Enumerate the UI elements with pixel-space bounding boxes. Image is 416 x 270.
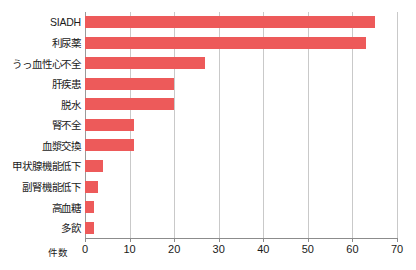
bar-row <box>85 74 397 95</box>
bar-row <box>85 115 397 136</box>
bar-row <box>85 135 397 156</box>
bar-row <box>85 197 397 218</box>
category-row: 腎不全 <box>0 115 81 136</box>
category-label: 甲状腺機能低下 <box>12 158 81 173</box>
x-tick-label-10: 10 <box>123 243 135 255</box>
category-label: 利尿薬 <box>52 35 81 50</box>
category-row: 肝疾患 <box>0 74 81 95</box>
x-axis-line <box>85 238 398 239</box>
bar-2 <box>85 57 205 69</box>
x-tick-label-30: 30 <box>213 243 225 255</box>
x-tick-mark-30 <box>219 238 220 242</box>
category-row: 血漿交換 <box>0 135 81 156</box>
category-label: 腎不全 <box>52 117 81 132</box>
x-tick-label-0: 0 <box>82 243 88 255</box>
category-row: 脱水 <box>0 94 81 115</box>
category-label: 多飲 <box>61 220 81 235</box>
bar-row <box>85 156 397 177</box>
category-row: 高血糖 <box>0 197 81 218</box>
category-row: 副腎機能低下 <box>0 176 81 197</box>
category-row: 利尿薬 <box>0 33 81 54</box>
bar-rows <box>85 12 397 238</box>
category-label: 肝疾患 <box>52 76 81 91</box>
bar-0 <box>85 16 375 28</box>
bar-7 <box>85 160 103 172</box>
category-row: 甲状腺機能低下 <box>0 156 81 177</box>
category-label: SIADH <box>50 16 81 28</box>
category-label: 血漿交換 <box>42 138 81 153</box>
bar-row <box>85 33 397 54</box>
category-label: 脱水 <box>61 97 81 112</box>
bar-8 <box>85 181 98 193</box>
x-tick-label-20: 20 <box>168 243 180 255</box>
bar-chart: SIADH利尿薬うっ血性心不全肝疾患脱水腎不全血漿交換甲状腺機能低下副腎機能低下… <box>0 0 416 270</box>
category-row: SIADH <box>0 12 81 33</box>
category-row: うっ血性心不全 <box>0 53 81 74</box>
bar-10 <box>85 222 94 234</box>
x-tick-mark-20 <box>174 238 175 242</box>
gridline-70 <box>397 12 398 238</box>
bar-row <box>85 12 397 33</box>
x-tick-mark-70 <box>397 238 398 242</box>
bar-4 <box>85 98 174 110</box>
bar-6 <box>85 139 134 151</box>
x-tick-mark-0 <box>85 238 86 242</box>
x-tick-mark-60 <box>352 238 353 242</box>
bar-3 <box>85 78 174 90</box>
bottom-edge-spacer <box>0 266 416 270</box>
x-tick-label-50: 50 <box>302 243 314 255</box>
bar-5 <box>85 119 134 131</box>
x-tick-mark-50 <box>308 238 309 242</box>
category-label: 副腎機能低下 <box>22 179 81 194</box>
bar-row <box>85 94 397 115</box>
x-tick-label-70: 70 <box>391 243 403 255</box>
x-tick-label-40: 40 <box>257 243 269 255</box>
category-label: 高血糖 <box>52 200 81 215</box>
category-axis-labels: SIADH利尿薬うっ血性心不全肝疾患脱水腎不全血漿交換甲状腺機能低下副腎機能低下… <box>0 12 81 238</box>
x-tick-mark-40 <box>263 238 264 242</box>
category-label: うっ血性心不全 <box>12 56 81 71</box>
category-row: 多飲 <box>0 217 81 238</box>
plot-area <box>85 12 397 238</box>
x-tick-label-60: 60 <box>346 243 358 255</box>
bar-row <box>85 53 397 74</box>
bar-row <box>85 176 397 197</box>
x-axis-title: 件数 <box>48 245 68 259</box>
bar-row <box>85 217 397 238</box>
bar-1 <box>85 37 366 49</box>
x-tick-mark-10 <box>130 238 131 242</box>
bar-9 <box>85 201 94 213</box>
